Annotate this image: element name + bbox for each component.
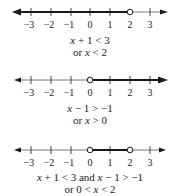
solution-caption: or x < 2 — [73, 46, 107, 58]
tick-labels: −3 −2 −1 0 1 2 3 — [24, 87, 153, 98]
open-circle-icon — [127, 9, 133, 15]
svg-text:3: 3 — [148, 19, 153, 30]
right-arrow-icon — [160, 10, 168, 15]
svg-text:−3: −3 — [24, 19, 35, 30]
svg-text:−1: −1 — [64, 87, 75, 98]
svg-text:−3: −3 — [24, 157, 35, 168]
solution-caption: or x > 0 — [73, 114, 108, 126]
inequality-caption: x + 1 < 3 and x − 1 > −1 — [36, 171, 143, 183]
open-circle-icon — [87, 77, 93, 83]
inequality-caption: x + 1 < 3 — [69, 34, 110, 46]
solution-caption: or 0 < x < 2 — [64, 183, 115, 195]
svg-text:−1: −1 — [64, 19, 75, 30]
inequality-caption: x − 1 > −1 — [66, 102, 113, 114]
svg-text:0: 0 — [88, 87, 93, 98]
svg-text:2: 2 — [128, 87, 133, 98]
svg-text:3: 3 — [148, 157, 153, 168]
open-circle-icon — [87, 147, 93, 153]
right-arrow-icon — [158, 77, 168, 84]
svg-text:2: 2 — [128, 19, 133, 30]
svg-text:1: 1 — [108, 19, 113, 30]
tick-labels: −3 −2 −1 0 1 2 3 — [24, 157, 153, 168]
svg-text:0: 0 — [88, 157, 93, 168]
svg-text:−2: −2 — [44, 19, 55, 30]
left-arrow-icon — [14, 148, 21, 153]
svg-text:3: 3 — [148, 87, 153, 98]
svg-text:1: 1 — [108, 157, 113, 168]
tick-labels: −3 −2 −1 0 1 2 3 — [24, 19, 153, 30]
svg-text:1: 1 — [108, 87, 113, 98]
svg-text:−2: −2 — [44, 87, 55, 98]
svg-text:2: 2 — [128, 157, 133, 168]
right-arrow-icon — [159, 148, 166, 153]
svg-text:−3: −3 — [24, 87, 35, 98]
panel-1-number-line: −3 −2 −1 0 1 2 3 x + 1 < 3 or x < 2 — [12, 8, 168, 58]
left-arrow-icon — [12, 9, 21, 16]
panel-2-number-line: −3 −2 −1 0 1 2 3 x − 1 > −1 or x > 0 — [14, 76, 168, 126]
open-circle-icon — [127, 147, 133, 153]
number-lines-figure: −3 −2 −1 0 1 2 3 x + 1 < 3 or x < 2 −3 −… — [0, 0, 179, 196]
svg-text:−2: −2 — [44, 157, 55, 168]
svg-text:0: 0 — [88, 19, 93, 30]
svg-text:−1: −1 — [64, 157, 75, 168]
panel-3-number-line: −3 −2 −1 0 1 2 3 x + 1 < 3 and x − 1 > −… — [14, 146, 166, 195]
left-arrow-icon — [14, 78, 21, 83]
